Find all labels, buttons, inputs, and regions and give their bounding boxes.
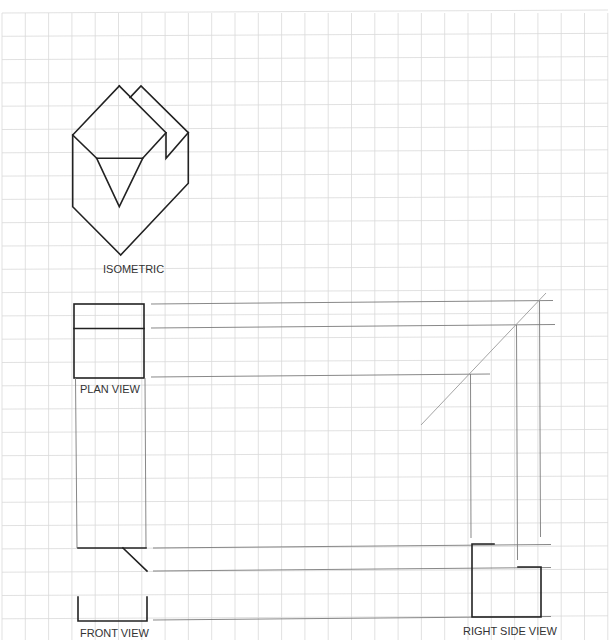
isometric-label: ISOMETRIC [103,263,164,275]
drawing-sheet: ISOMETRIC PLAN VIEW FRONT VIEW [0,0,611,644]
front-vertical-projection-lines [76,378,147,548]
front-view: FRONT VIEW [78,548,149,639]
side-vertical-projection-lines [471,301,541,560]
iso-triangle [97,158,143,206]
right-side-view: RIGHT SIDE VIEW [463,544,558,637]
plan-view: PLAN VIEW [74,304,144,395]
miter-line [421,293,546,425]
iso-outline [73,86,189,255]
isometric-drawing: ISOMETRIC [73,86,189,275]
front-view-slope [123,548,147,571]
iso-notch [166,133,188,159]
front-view-base [78,597,147,621]
front-view-label: FRONT VIEW [80,627,149,639]
right-side-view-label: RIGHT SIDE VIEW [463,625,558,637]
plan-view-label: PLAN VIEW [80,383,141,395]
right-side-view-outline [472,544,541,617]
